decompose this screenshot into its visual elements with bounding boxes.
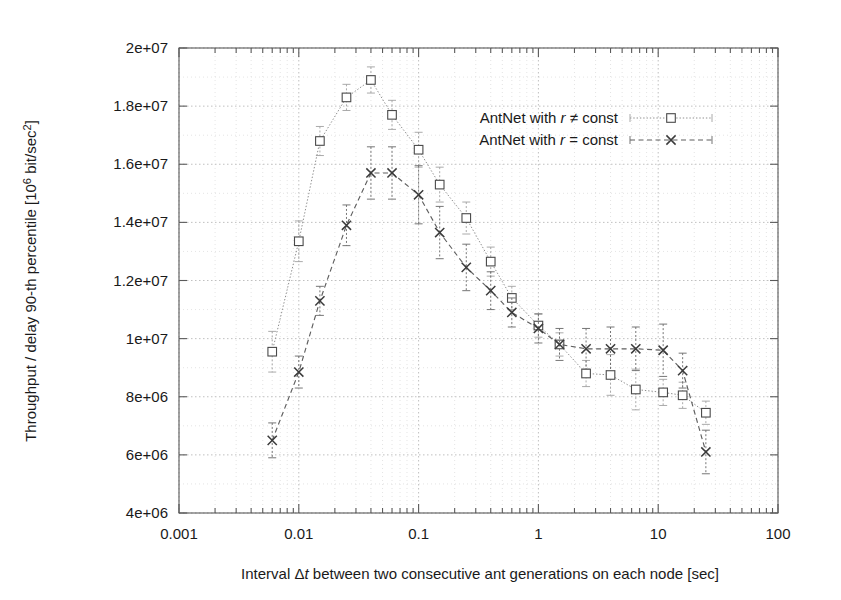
data-point-marker-square xyxy=(435,180,444,189)
x-axis-title: Interval Δt between two consecutive ant … xyxy=(241,565,719,582)
y-tick-label: 1e+07 xyxy=(126,330,168,347)
data-point-marker-square xyxy=(388,111,397,120)
data-point-marker-x xyxy=(486,286,495,295)
x-axis-tick-labels: 0.0010.010.1110100 xyxy=(160,525,790,542)
y-axis-tick-labels: 4e+066e+068e+061e+071.2e+071.4e+071.6e+0… xyxy=(113,39,168,521)
y-tick-label: 1.2e+07 xyxy=(113,272,168,289)
data-point-marker-square xyxy=(582,369,591,378)
series-line xyxy=(272,173,706,452)
y-tick-label: 2e+07 xyxy=(126,39,168,56)
y-tick-label: 1.4e+07 xyxy=(113,213,168,230)
data-point-marker-square xyxy=(667,114,676,123)
data-point-marker-square xyxy=(659,388,668,397)
x-tick-label: 1 xyxy=(534,525,542,542)
throughput-delay-percentile-chart: 4e+066e+068e+061e+071.2e+071.4e+071.6e+0… xyxy=(0,0,841,600)
data-point-marker-square xyxy=(678,391,687,400)
data-point-marker-square xyxy=(702,408,711,417)
y-tick-label: 8e+06 xyxy=(126,388,168,405)
y-axis-title: Throughput / delay 90-th percentile [106… xyxy=(21,120,39,442)
series-line xyxy=(272,80,706,413)
data-point-marker-square xyxy=(486,257,495,266)
data-point-marker-square xyxy=(462,214,471,223)
y-tick-label: 4e+06 xyxy=(126,504,168,521)
data-point-marker-square xyxy=(295,237,304,246)
x-tick-label: 0.001 xyxy=(160,525,198,542)
data-series xyxy=(268,147,711,474)
x-tick-label: 0.01 xyxy=(284,525,313,542)
legend-entry-label: AntNet with r = const xyxy=(479,131,619,148)
legend-entry-label: AntNet with r ≠ const xyxy=(480,109,619,126)
data-point-marker-square xyxy=(631,385,640,394)
y-tick-label: 1.6e+07 xyxy=(113,155,168,172)
chart-figure: 4e+066e+068e+061e+071.2e+071.4e+071.6e+0… xyxy=(0,0,841,600)
x-tick-label: 0.1 xyxy=(408,525,429,542)
error-bars xyxy=(268,147,710,474)
data-point-marker-square xyxy=(342,93,351,102)
y-tick-label: 6e+06 xyxy=(126,446,168,463)
data-point-marker-square xyxy=(414,145,423,154)
x-tick-label: 10 xyxy=(650,525,667,542)
data-point-marker-square xyxy=(268,347,277,356)
data-point-marker-square xyxy=(367,76,376,85)
data-point-marker-square xyxy=(316,137,325,146)
x-tick-label: 100 xyxy=(765,525,790,542)
data-point-marker-square xyxy=(606,371,615,380)
y-tick-label: 1.8e+07 xyxy=(113,97,168,114)
data-series-layer xyxy=(268,67,711,474)
